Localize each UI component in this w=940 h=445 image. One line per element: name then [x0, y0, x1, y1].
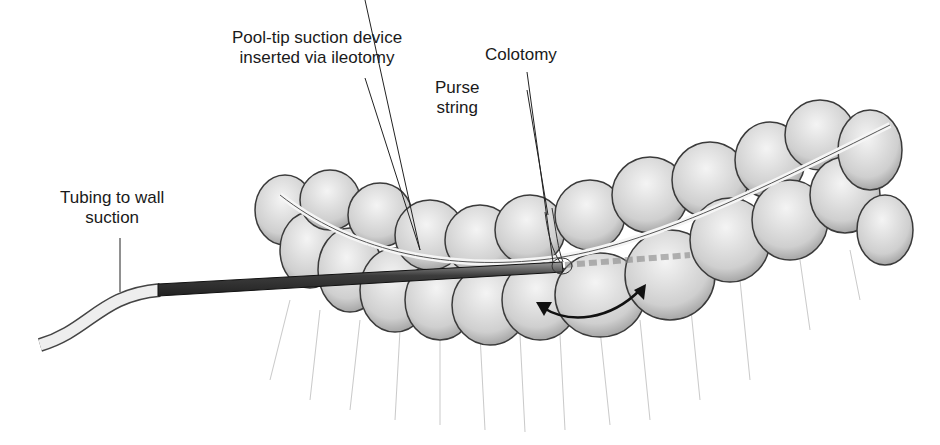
- colotomy-label: Colotomy: [485, 45, 557, 65]
- purse-string-label: Purse string: [435, 78, 479, 118]
- pool-tip-label: Pool-tip suction device inserted via ile…: [232, 28, 402, 68]
- tubing-label-line1: Tubing to wall: [60, 188, 164, 208]
- tubing-label: Tubing to wall suction: [60, 188, 164, 228]
- colotomy-label-text: Colotomy: [485, 45, 557, 65]
- tubing-label-line2: suction: [60, 208, 164, 228]
- pool-tip-label-line1: Pool-tip suction device: [232, 28, 402, 48]
- purse-string-line2: string: [435, 98, 479, 118]
- colon: [255, 100, 913, 345]
- pool-tip-label-line2: inserted via ileotomy: [232, 48, 402, 68]
- purse-string-line1: Purse: [435, 78, 479, 98]
